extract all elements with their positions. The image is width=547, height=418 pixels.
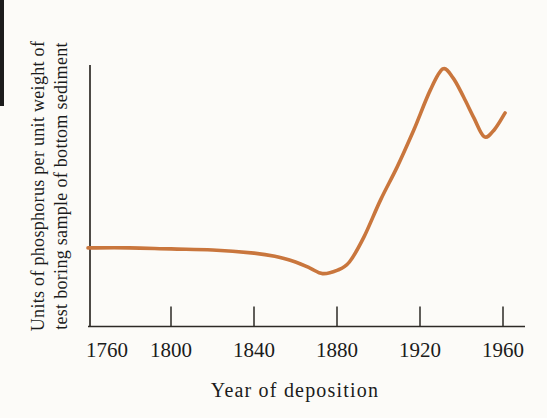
y-axis-title-line-1: Units of phosphorus per unit weight of — [28, 41, 48, 331]
y-axis-title-line-2: test boring sample of bottom sediment — [51, 42, 71, 330]
x-tick-label: 1800 — [150, 338, 192, 362]
x-axis-title: Year of deposition — [211, 379, 379, 402]
scan-edge-artifact — [0, 0, 4, 106]
x-tick-label: 1960 — [482, 338, 524, 362]
figure-sediment-phosphorus-chart: 176018001840188019201960 Year of deposit… — [0, 0, 547, 418]
y-axis-title: Units of phosphorus per unit weight ofte… — [28, 41, 71, 331]
x-axis-ticks — [171, 307, 503, 327]
x-tick-label: 1920 — [399, 338, 441, 362]
phosphorus-curve — [88, 69, 505, 274]
x-tick-label: 1840 — [233, 338, 275, 362]
x-axis-tick-labels: 176018001840188019201960 — [86, 338, 524, 362]
chart-canvas: 176018001840188019201960 Year of deposit… — [0, 0, 547, 418]
x-tick-label: 1760 — [86, 338, 128, 362]
x-tick-label: 1880 — [316, 338, 358, 362]
